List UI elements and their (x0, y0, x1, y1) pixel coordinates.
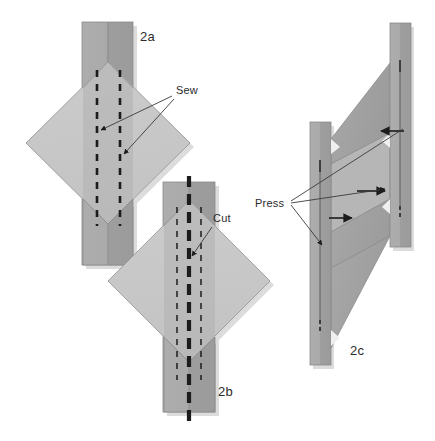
strip-overlay-2a (83, 62, 133, 224)
construction-diagram: Sew 2a Cut 2b (0, 0, 435, 441)
panel-label-2a: 2a (140, 29, 156, 44)
figure-canvas: Sew 2a Cut 2b (0, 0, 435, 441)
panel-label-2b: 2b (218, 384, 233, 399)
panel-label-2c: 2c (350, 343, 365, 358)
press-label: Press (255, 197, 284, 209)
cut-label: Cut (213, 212, 231, 224)
sew-label: Sew (176, 84, 198, 96)
strip-overlay-2b (164, 200, 215, 362)
